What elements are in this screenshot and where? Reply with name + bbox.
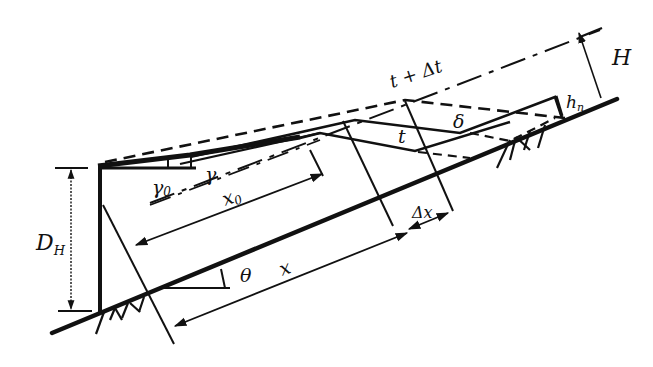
label-gamma: γ — [205, 163, 217, 185]
label-t: t — [398, 125, 406, 147]
dimension-H — [579, 33, 601, 98]
label-h_n: hn — [566, 92, 584, 114]
theta-arc — [221, 269, 225, 288]
ground-slope-line — [52, 99, 617, 333]
label-x: x — [276, 255, 294, 279]
dimension-D_H — [55, 168, 92, 311]
normal-x0-end — [310, 150, 323, 176]
line-t-plus-dt — [150, 30, 600, 203]
normal-line-right — [405, 101, 453, 211]
label-delta-x: Δx — [411, 203, 433, 222]
label-D_H: DH — [35, 230, 66, 258]
label-gamma0: γ0 — [152, 176, 171, 199]
slope-diagram: DH hn H t + Δt δ t γ0 γ x0 θ x Δx — [0, 0, 653, 367]
normal-line-left — [103, 205, 174, 344]
label-theta: θ — [240, 264, 252, 286]
H-top-tick — [580, 28, 602, 37]
label-x0: x0 — [219, 183, 245, 212]
label-H: H — [611, 45, 632, 70]
label-t-plus-dt: t + Δt — [387, 55, 446, 92]
label-delta: δ — [453, 110, 464, 132]
profile-lower-dashed — [418, 152, 470, 158]
dimension-x — [175, 233, 407, 326]
